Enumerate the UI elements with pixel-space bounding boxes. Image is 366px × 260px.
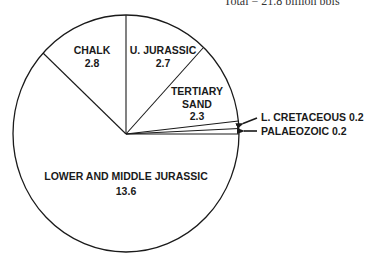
slice-value: 2.8 bbox=[74, 57, 111, 70]
slice-name: CHALK bbox=[74, 44, 111, 57]
slice-label-chalk: CHALK 2.8 bbox=[74, 44, 111, 69]
slice-label-lowermiddle: LOWER AND MIDDLE JURASSIC 13.6 bbox=[44, 169, 208, 199]
slice-value: 13.6 bbox=[44, 184, 208, 199]
slice-label-ujurassic: U. JURASSIC 2.7 bbox=[130, 44, 197, 69]
slice-label-palaeozoic: PALAEOZOIC 0.2 bbox=[261, 125, 347, 137]
arrow-lcretaceous bbox=[243, 118, 257, 124]
slice-name: LOWER AND MIDDLE JURASSIC bbox=[44, 169, 208, 184]
slice-label-lcretaceous: L. CRETACEOUS 0.2 bbox=[261, 111, 364, 123]
slice-name: SAND bbox=[171, 98, 223, 111]
slice-value: 2.3 bbox=[171, 110, 223, 123]
slice-value: 2.7 bbox=[130, 57, 197, 70]
slice-label-tertiary: TERTIARY SAND 2.3 bbox=[171, 85, 223, 123]
pie-chart: Total = 21.8 billion bbls CHALK 2.8 U. bbox=[0, 0, 366, 260]
slice-name: TERTIARY bbox=[171, 85, 223, 98]
slice-name: U. JURASSIC bbox=[130, 44, 197, 57]
